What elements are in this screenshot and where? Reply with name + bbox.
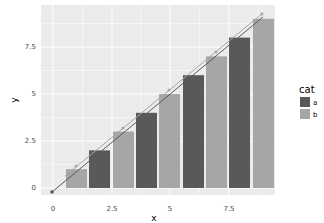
svg-text:2.5: 2.5 xyxy=(106,205,117,213)
svg-text:x: x xyxy=(151,213,157,223)
svg-text:7.5: 7.5 xyxy=(25,43,36,51)
svg-text:a: a xyxy=(313,99,317,107)
svg-text:5: 5 xyxy=(168,205,172,213)
svg-text:y: y xyxy=(9,97,19,103)
legend-key-a xyxy=(300,97,310,107)
svg-text:2.5: 2.5 xyxy=(25,137,36,145)
svg-text:0: 0 xyxy=(32,184,36,192)
y-axis: 0 2.5 5 7.5 y xyxy=(9,43,36,192)
legend-key-b xyxy=(300,109,310,119)
svg-text:0: 0 xyxy=(51,205,55,213)
x-axis: 0 2.5 5 7.5 x xyxy=(51,205,235,223)
chart: 0 2.5 5 7.5 y 0 2.5 5 7.5 x cat a b xyxy=(0,0,324,223)
svg-text:7.5: 7.5 xyxy=(223,205,234,213)
svg-text:cat: cat xyxy=(299,84,315,95)
legend: cat a b xyxy=(299,84,318,119)
svg-text:b: b xyxy=(313,111,318,119)
svg-text:5: 5 xyxy=(32,90,36,98)
